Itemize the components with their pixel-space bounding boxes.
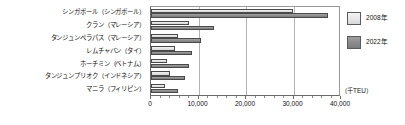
bar-group [151, 84, 339, 94]
axis-tick-minor [255, 96, 256, 98]
bar-2022年 [151, 64, 189, 68]
light-gray-swatch-icon [347, 12, 361, 25]
category-label: タンジュンプリオク（インドネシア） [0, 73, 148, 79]
axis-tick-minor [302, 96, 303, 98]
axis-tick-minor [274, 96, 275, 98]
plot-area [150, 6, 340, 96]
category-axis-labels: シンガポール（シンガポール）クラン（マレーシア）タンジュンペラパス（マレーシア）… [0, 6, 148, 96]
category-label: シンガポール（シンガポール） [0, 9, 148, 15]
bar-2022年 [151, 51, 192, 55]
axis-tick-label: 0 [148, 101, 152, 108]
legend-item-2022: 2022年 [347, 36, 388, 49]
bar-2008年 [151, 46, 175, 50]
axis-tick-label: 30,000 [282, 101, 302, 108]
bar-group [151, 33, 339, 43]
bar-group [151, 46, 339, 56]
axis-tick-label: 10,000 [187, 101, 207, 108]
axis-tick-major [340, 96, 341, 99]
bar-2008年 [151, 84, 165, 88]
bar-2008年 [151, 71, 170, 75]
bar-group [151, 21, 339, 31]
bar-2022年 [151, 89, 178, 93]
axis-tick-major [245, 96, 246, 99]
bar-2008年 [151, 21, 189, 25]
legend-item-2008: 2008年 [347, 12, 388, 25]
category-label: タンジュンペラパス（マレーシア） [0, 35, 148, 41]
axis-tick-minor [217, 96, 218, 98]
axis-tick-minor [236, 96, 237, 98]
axis-tick-minor [331, 96, 332, 98]
x-axis-unit-caption: （千TEU） [341, 88, 372, 94]
bar-2022年 [151, 38, 201, 42]
legend-label: 2008年 [366, 15, 388, 22]
axis-tick-minor [312, 96, 313, 98]
axis-tick-minor [321, 96, 322, 98]
axis-tick-minor [188, 96, 189, 98]
axis-tick-minor [169, 96, 170, 98]
bar-group [151, 71, 339, 81]
bar-group [151, 8, 339, 18]
bar-group [151, 59, 339, 69]
axis-tick-major [198, 96, 199, 99]
bar-2022年 [151, 76, 185, 80]
axis-tick-minor [160, 96, 161, 98]
axis-tick-label: 20,000 [235, 101, 255, 108]
category-label: ホーチミン（ベトナム） [0, 61, 148, 67]
bar-2008年 [151, 59, 167, 63]
chart-legend: 2008年 2022年 [347, 8, 405, 56]
category-label: レムチャバン（タイ） [0, 48, 148, 54]
horizontal-bar-chart: シンガポール（シンガポール）クラン（マレーシア）タンジュンペラパス（マレーシア）… [0, 0, 405, 125]
category-label: クラン（マレーシア） [0, 22, 148, 28]
axis-tick-minor [179, 96, 180, 98]
axis-tick-minor [264, 96, 265, 98]
bar-2022年 [151, 13, 328, 17]
bar-2008年 [151, 9, 293, 13]
legend-label: 2022年 [366, 39, 388, 46]
bar-groups [151, 7, 339, 95]
category-label: マニラ（フィリピン） [0, 86, 148, 92]
dark-gray-swatch-icon [347, 36, 361, 49]
axis-tick-label: 40,000 [330, 101, 350, 108]
axis-tick-minor [283, 96, 284, 98]
x-axis-tick-labels: 010,00020,00030,00040,000 [150, 101, 340, 113]
axis-tick-major [293, 96, 294, 99]
axis-tick-minor [226, 96, 227, 98]
bar-2008年 [151, 34, 178, 38]
axis-tick-major [150, 96, 151, 99]
bar-2022年 [151, 26, 214, 30]
axis-tick-minor [207, 96, 208, 98]
